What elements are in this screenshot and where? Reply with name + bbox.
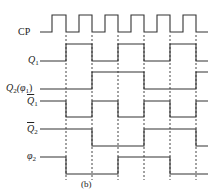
waveform-q1 [40, 44, 208, 61]
waveform-phi2 [40, 157, 208, 174]
waveform-q2 [40, 72, 208, 89]
label-q1: Q1 [28, 55, 39, 68]
label-q1-bar: Q1 [27, 96, 38, 109]
waveform-q2bar [40, 129, 208, 146]
waveform-q1bar [40, 101, 208, 117]
label-cp: CP [18, 27, 30, 37]
timing-diagram: CP Q1 Q2(φ1) Q1 Q2 φ2 (b) [0, 0, 211, 194]
label-q2-bar: Q2 [27, 124, 38, 137]
figure-label: (b) [81, 179, 92, 189]
waveform-cp [40, 15, 208, 32]
label-phi2: φ2 [27, 151, 36, 164]
